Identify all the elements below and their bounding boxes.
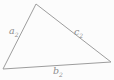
side-label-a-subscript: 2 [14,31,19,38]
triangle-outline [3,4,111,69]
triangle-figure: a2 c2 b2 [0,0,114,80]
side-label-c-subscript: 2 [78,32,83,39]
side-label-c: c2 [74,26,83,39]
figure-canvas: a2 c2 b2 [0,0,114,80]
side-label-b-subscript: 2 [58,71,63,78]
side-label-b: b2 [53,65,63,78]
side-label-a: a2 [9,25,19,38]
